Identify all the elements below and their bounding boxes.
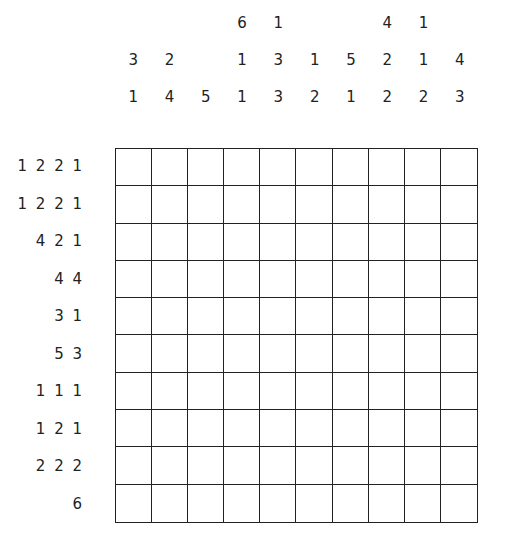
grid-cell[interactable]	[152, 335, 188, 372]
grid-cell[interactable]	[152, 186, 188, 223]
grid-cell[interactable]	[152, 373, 188, 410]
grid-cell[interactable]	[260, 261, 296, 298]
grid-cell[interactable]	[116, 485, 152, 522]
grid-cell[interactable]	[224, 335, 260, 372]
grid-cell[interactable]	[296, 186, 332, 223]
grid-cell[interactable]	[224, 447, 260, 484]
grid-cell[interactable]	[296, 447, 332, 484]
grid-cell[interactable]	[260, 447, 296, 484]
grid-cell[interactable]	[188, 447, 224, 484]
grid-cell[interactable]	[260, 224, 296, 261]
grid-cell[interactable]	[260, 298, 296, 335]
grid-cell[interactable]	[152, 224, 188, 261]
grid-cell[interactable]	[441, 149, 477, 186]
grid-cell[interactable]	[152, 410, 188, 447]
grid-cell[interactable]	[405, 485, 441, 522]
grid-cell[interactable]	[296, 224, 332, 261]
grid-cell[interactable]	[296, 335, 332, 372]
grid-cell[interactable]	[441, 224, 477, 261]
grid-cell[interactable]	[369, 485, 405, 522]
grid-cell[interactable]	[405, 373, 441, 410]
grid-cell[interactable]	[369, 149, 405, 186]
grid-cell[interactable]	[224, 186, 260, 223]
grid-cell[interactable]	[260, 373, 296, 410]
grid-cell[interactable]	[116, 373, 152, 410]
grid-cell[interactable]	[333, 224, 369, 261]
grid-cell[interactable]	[369, 447, 405, 484]
grid-cell[interactable]	[188, 224, 224, 261]
grid-cell[interactable]	[333, 298, 369, 335]
grid-cell[interactable]	[260, 485, 296, 522]
grid-cell[interactable]	[116, 149, 152, 186]
grid-cell[interactable]	[369, 261, 405, 298]
grid-cell[interactable]	[405, 410, 441, 447]
grid-cell[interactable]	[441, 485, 477, 522]
grid-cell[interactable]	[369, 410, 405, 447]
grid-cell[interactable]	[188, 485, 224, 522]
grid-cell[interactable]	[333, 261, 369, 298]
grid-cell[interactable]	[333, 186, 369, 223]
grid-cell[interactable]	[369, 335, 405, 372]
grid-cell[interactable]	[296, 261, 332, 298]
grid-cell[interactable]	[405, 186, 441, 223]
grid-cell[interactable]	[333, 373, 369, 410]
grid-cell[interactable]	[188, 261, 224, 298]
grid-cell[interactable]	[441, 335, 477, 372]
grid-cell[interactable]	[333, 410, 369, 447]
grid-cell[interactable]	[188, 186, 224, 223]
grid-cell[interactable]	[296, 410, 332, 447]
grid-cell[interactable]	[116, 410, 152, 447]
grid-cell[interactable]	[405, 298, 441, 335]
grid-cell[interactable]	[333, 485, 369, 522]
grid-cell[interactable]	[441, 410, 477, 447]
grid-cell[interactable]	[405, 447, 441, 484]
grid-cell[interactable]	[116, 224, 152, 261]
grid-cell[interactable]	[260, 149, 296, 186]
grid-cell[interactable]	[152, 447, 188, 484]
grid-cell[interactable]	[405, 261, 441, 298]
grid-cell[interactable]	[333, 149, 369, 186]
grid-cell[interactable]	[260, 186, 296, 223]
grid-cell[interactable]	[116, 447, 152, 484]
grid-cell[interactable]	[224, 298, 260, 335]
grid-cell[interactable]	[116, 335, 152, 372]
grid-cell[interactable]	[116, 186, 152, 223]
grid-cell[interactable]	[369, 186, 405, 223]
grid-cell[interactable]	[441, 186, 477, 223]
grid-cell[interactable]	[224, 410, 260, 447]
grid-cell[interactable]	[296, 298, 332, 335]
grid-cell[interactable]	[224, 224, 260, 261]
grid-cell[interactable]	[116, 298, 152, 335]
grid-cell[interactable]	[224, 261, 260, 298]
grid-cell[interactable]	[441, 261, 477, 298]
grid-cell[interactable]	[369, 298, 405, 335]
grid-cell[interactable]	[369, 224, 405, 261]
grid-cell[interactable]	[333, 335, 369, 372]
grid-cell[interactable]	[152, 149, 188, 186]
grid-cell[interactable]	[405, 224, 441, 261]
grid-cell[interactable]	[224, 485, 260, 522]
grid-cell[interactable]	[188, 149, 224, 186]
grid-cell[interactable]	[405, 149, 441, 186]
grid-cell[interactable]	[116, 261, 152, 298]
grid-cell[interactable]	[333, 447, 369, 484]
grid-cell[interactable]	[296, 149, 332, 186]
grid-cell[interactable]	[441, 373, 477, 410]
grid-cell[interactable]	[260, 335, 296, 372]
grid-cell[interactable]	[224, 373, 260, 410]
grid-cell[interactable]	[441, 298, 477, 335]
grid-cell[interactable]	[188, 298, 224, 335]
grid-cell[interactable]	[152, 485, 188, 522]
grid-cell[interactable]	[441, 447, 477, 484]
grid-cell[interactable]	[369, 373, 405, 410]
grid-cell[interactable]	[152, 298, 188, 335]
grid-cell[interactable]	[296, 373, 332, 410]
grid-cell[interactable]	[152, 261, 188, 298]
grid-cell[interactable]	[224, 149, 260, 186]
grid-cell[interactable]	[188, 335, 224, 372]
grid-cell[interactable]	[260, 410, 296, 447]
grid-cell[interactable]	[188, 373, 224, 410]
grid-cell[interactable]	[188, 410, 224, 447]
grid-cell[interactable]	[405, 335, 441, 372]
grid-cell[interactable]	[296, 485, 332, 522]
